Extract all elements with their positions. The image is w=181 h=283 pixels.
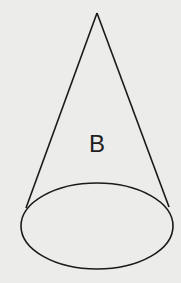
cone-figure: B (0, 0, 181, 283)
cone-left-edge (26, 13, 97, 208)
cone-diagram: B (0, 0, 181, 283)
cone-label: B (89, 130, 105, 157)
cone-base-ellipse (21, 183, 173, 269)
cone-right-edge (97, 13, 169, 207)
